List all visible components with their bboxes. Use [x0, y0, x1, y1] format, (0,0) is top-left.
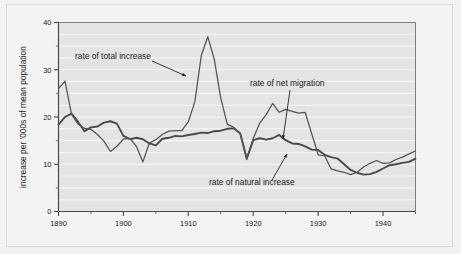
x-tick-label: 1910	[180, 219, 197, 228]
figure-container: 189019001910192019301940 010203040 incre…	[0, 0, 461, 254]
y-axis-title: increase per '000s of mean population	[18, 46, 28, 188]
x-tick-label: 1930	[310, 219, 327, 228]
y-tick-label: 0	[47, 207, 51, 216]
y-tick-label: 40	[43, 18, 51, 27]
x-tick-label: 1900	[115, 219, 132, 228]
y-tick-label: 10	[43, 160, 51, 169]
x-tick-label: 1920	[245, 219, 262, 228]
y-tick-label: 20	[43, 113, 51, 122]
y-axis-tick-labels: 010203040	[43, 18, 51, 216]
x-tick-label: 1890	[50, 219, 67, 228]
annotation-label: rate of natural increase	[209, 177, 295, 187]
annotation-label: rate of net migration	[250, 78, 325, 88]
annotation-label: rate of total increase	[75, 51, 151, 61]
x-tick-label: 1940	[375, 219, 392, 228]
y-axis-title-text: increase per '000s of mean population	[18, 46, 28, 188]
line-chart: 189019001910192019301940 010203040 incre…	[0, 0, 461, 254]
x-axis-tick-labels: 189019001910192019301940	[50, 219, 391, 228]
y-tick-label: 30	[43, 66, 51, 75]
